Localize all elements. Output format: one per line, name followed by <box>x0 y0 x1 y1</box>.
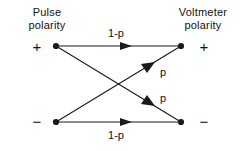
pulse-polarity-line2: polarity <box>10 19 84 32</box>
arrowhead-plus-to-plus <box>120 42 132 50</box>
arrowhead-minus-to-plus <box>141 62 155 73</box>
voltmeter-polarity-line1: Voltmeter <box>164 6 242 19</box>
edge-label-upper-p: p <box>156 66 170 78</box>
node-voltmeter-minus <box>178 119 184 125</box>
pulse-plus-sign: + <box>29 39 45 54</box>
voltmeter-polarity-line2: polarity <box>164 19 242 32</box>
edge-label-lower-p: p <box>156 92 170 104</box>
node-voltmeter-plus <box>178 43 184 49</box>
voltmeter-polarity-header: Voltmeter polarity <box>164 6 242 32</box>
binary-channel-diagram: Pulse polarity Voltmeter polarity + − + … <box>0 0 242 151</box>
pulse-polarity-line1: Pulse <box>10 6 84 19</box>
pulse-polarity-header: Pulse polarity <box>10 6 84 32</box>
edge-label-bottom-1-minus-p: 1-p <box>96 129 136 141</box>
node-pulse-plus <box>53 43 59 49</box>
voltmeter-minus-sign: − <box>196 114 212 129</box>
node-pulse-minus <box>53 119 59 125</box>
arrowhead-minus-to-minus <box>120 118 132 126</box>
arrowhead-plus-to-minus <box>141 95 155 106</box>
edge-label-top-1-minus-p: 1-p <box>96 27 136 39</box>
pulse-minus-sign: − <box>29 114 45 129</box>
voltmeter-plus-sign: + <box>196 39 212 54</box>
